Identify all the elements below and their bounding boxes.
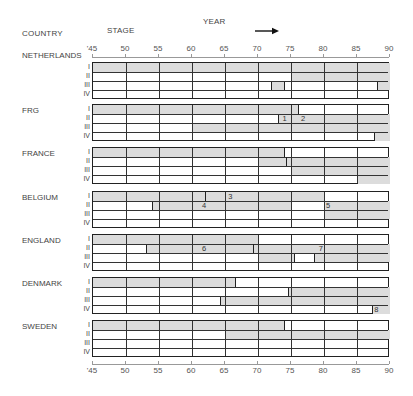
axis-tick: [224, 361, 225, 364]
axis-tick-label: 65: [220, 366, 229, 375]
stage-label: IV: [76, 304, 90, 313]
axis-tick: [92, 361, 93, 364]
stage-bar-iii: [258, 253, 294, 262]
segment-end-marker: [284, 321, 285, 330]
country-label: ENGLAND: [22, 236, 61, 245]
stage-bar-iii: [271, 81, 284, 90]
stage-bar-iv: [357, 175, 390, 184]
row-divider: [93, 262, 388, 263]
axis-tick: [125, 361, 126, 364]
stage-label: IV: [76, 131, 90, 140]
year-gridline: [324, 105, 325, 140]
year-gridline: [225, 192, 226, 227]
country-label: SWEDEN: [22, 322, 57, 331]
segment-start-marker: [288, 287, 289, 296]
row-divider: [93, 339, 388, 340]
segment-end-marker: [298, 105, 299, 114]
annotation-number: 5: [326, 201, 330, 210]
stage-label: III: [76, 252, 90, 261]
stage-bar-iii: [291, 166, 390, 175]
year-gridline: [159, 192, 160, 227]
stage-label: I: [76, 277, 90, 286]
country-label: BELGIUM: [22, 193, 58, 202]
stage-bar-iii: [220, 296, 390, 305]
stage-label: I: [76, 191, 90, 200]
axis-tick-label: '45: [87, 366, 97, 375]
year-gridline: [192, 63, 193, 98]
event-marker: [286, 157, 287, 166]
row-divider: [93, 132, 388, 133]
row-divider: [93, 90, 388, 91]
row-divider: [93, 305, 388, 306]
stage-bar-i: [93, 63, 390, 72]
stage-bar-ii: [288, 287, 390, 296]
axis-tick-label: 50: [121, 44, 130, 53]
year-gridline: [126, 105, 127, 140]
row-divider: [93, 253, 388, 254]
stage-label: I: [76, 62, 90, 71]
stage-label: II: [76, 329, 90, 338]
axis-tick: [323, 361, 324, 364]
axis-tick: [290, 361, 291, 364]
row-divider: [93, 296, 388, 297]
year-gridline: [324, 63, 325, 98]
annotation-number: 6: [202, 244, 206, 253]
segment-end-marker: [284, 148, 285, 157]
year-gridline: [357, 321, 358, 356]
axis-tick-label: 75: [286, 44, 295, 53]
country-label: DENMARK: [22, 279, 62, 288]
year-gridline: [126, 321, 127, 356]
axis-tick-label: 90: [385, 366, 394, 375]
row-divider: [93, 175, 388, 176]
annotation-number: 4: [202, 201, 206, 210]
axis-tick-label: 80: [319, 44, 328, 53]
country-block: 345: [92, 191, 389, 228]
stage-label: II: [76, 71, 90, 80]
year-gridline: [291, 235, 292, 270]
row-divider: [93, 157, 388, 158]
stage-label: II: [76, 243, 90, 252]
stage-bar-iii: [314, 253, 390, 262]
segment-start-marker: [377, 81, 378, 90]
segment-start-marker: [152, 201, 153, 210]
year-gridline: [159, 235, 160, 270]
axis-tick: [257, 54, 258, 57]
segment-end-marker: [235, 278, 236, 287]
stage-bar-i: [93, 235, 258, 244]
year-gridline: [159, 105, 160, 140]
stage-label: III: [76, 209, 90, 218]
year-gridline: [225, 63, 226, 98]
year-gridline: [192, 235, 193, 270]
country-block: 12: [92, 104, 389, 141]
year-gridline: [126, 148, 127, 183]
axis-line: [92, 364, 389, 365]
stage-bar-i: [93, 192, 324, 201]
axis-tick-label: 90: [385, 44, 394, 53]
year-gridline: [357, 235, 358, 270]
country-block: 67: [92, 234, 389, 271]
country-label: FRANCE: [22, 149, 55, 158]
year-gridline: [258, 321, 259, 356]
stage-label: IV: [76, 347, 90, 356]
row-divider: [93, 348, 388, 349]
axis-tick-label: 60: [187, 44, 196, 53]
annotation-number: 7: [319, 244, 323, 253]
country-column-header: COUNTRY: [22, 29, 63, 38]
stage-bar-i: [93, 321, 284, 330]
year-gridline: [291, 278, 292, 313]
stage-label: IV: [76, 174, 90, 183]
year-gridline: [225, 105, 226, 140]
segment-end-marker: [294, 253, 295, 262]
row-divider: [93, 201, 388, 202]
segment-start-marker: [374, 132, 375, 141]
country-block: [92, 62, 389, 99]
year-gridline: [126, 192, 127, 227]
year-gridline: [258, 235, 259, 270]
axis-tick: [191, 361, 192, 364]
year-gridline: [225, 148, 226, 183]
axis-tick-label: 65: [220, 44, 229, 53]
stage-label: IV: [76, 89, 90, 98]
axis-tick-label: 50: [121, 366, 130, 375]
year-gridline: [324, 192, 325, 227]
segment-start-marker: [278, 114, 279, 123]
